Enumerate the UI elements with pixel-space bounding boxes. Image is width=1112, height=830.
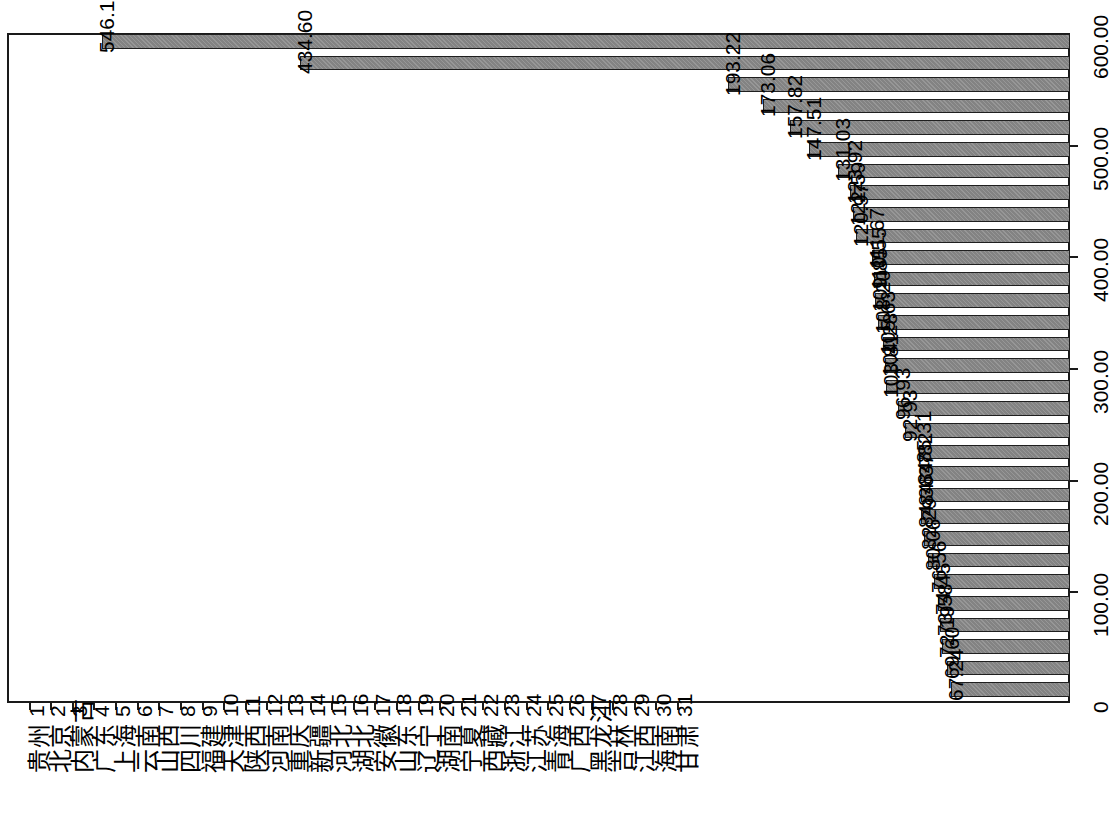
value-tick	[1070, 256, 1078, 258]
category-label-group: 30海南	[634, 703, 656, 830]
value-tick	[1070, 368, 1078, 370]
category-label-group: 11陕西	[223, 703, 245, 830]
category-label-group: 3内蒙古	[50, 703, 72, 830]
category-label-group: 7山西	[137, 703, 159, 830]
bar[interactable]	[102, 34, 1070, 49]
value-tick	[1070, 480, 1078, 482]
category-label-group: 9福建	[180, 703, 202, 830]
bar-slot: 147.51	[7, 141, 1070, 163]
category-label-group: 27黑龙江	[569, 703, 591, 830]
bar-value-label: 546.18	[96, 0, 117, 53]
value-axis-label: 600.00	[1090, 15, 1111, 79]
category-label-group: 10天津	[202, 703, 224, 830]
bar[interactable]	[883, 337, 1070, 352]
bar-slot: 173.06	[7, 98, 1070, 120]
category-label-group: 20湖南	[418, 703, 440, 830]
value-axis-label: 300.00	[1090, 350, 1111, 414]
bar[interactable]	[838, 164, 1070, 179]
bar-slot: 110.55	[7, 271, 1070, 293]
bar[interactable]	[921, 488, 1070, 503]
bar-slot: 69.60	[7, 660, 1070, 682]
category-label-group: 4广东	[72, 703, 94, 830]
category-label-group: 14新疆	[288, 703, 310, 830]
category-label-group: 17安徽	[353, 703, 375, 830]
value-axis-label: 500.00	[1090, 126, 1111, 190]
value-axis: 0100.00200.00300.00400.00500.00600.00	[1070, 33, 1104, 703]
bar[interactable]	[878, 315, 1070, 330]
bar-slot: 434.60	[7, 55, 1070, 77]
category-label-group: 12河南	[245, 703, 267, 830]
bar-slot: 84.37	[7, 487, 1070, 509]
category-index-label: 31	[674, 694, 695, 717]
bar-slot: 122.59	[7, 206, 1070, 228]
category-axis-labels: 1贵州2北京3内蒙古4广东5上海6云南7山西8四川9福建10天津11陕西12河南…	[7, 703, 1070, 830]
value-tick	[1070, 145, 1078, 147]
bar-slot: 73.58	[7, 617, 1070, 639]
category-name-label: 甘肃	[676, 723, 700, 773]
bar-slot: 157.82	[7, 119, 1070, 141]
category-label-group: 18山东	[374, 703, 396, 830]
bar-value-label: 147.51	[803, 96, 824, 160]
value-axis-label: 400.00	[1090, 238, 1111, 302]
category-label-group: 21宁夏	[439, 703, 461, 830]
bar-slot: 546.18	[7, 33, 1070, 55]
bar[interactable]	[300, 56, 1070, 71]
bar-slot: 120.97	[7, 228, 1070, 250]
category-label-group: 22西藏	[461, 703, 483, 830]
bar-slot: 84.82	[7, 465, 1070, 487]
category-label-group: 24江苏	[504, 703, 526, 830]
bar[interactable]	[728, 77, 1070, 92]
category-label-group: 15河北	[310, 703, 332, 830]
value-axis-label: 100.00	[1090, 573, 1111, 637]
bar-slot: 193.22	[7, 76, 1070, 98]
bar[interactable]	[951, 682, 1070, 697]
bar-value-label: 434.60	[294, 10, 315, 74]
bar-slot: 76.56	[7, 573, 1070, 595]
category-label-group: 29江西	[612, 703, 634, 830]
value-tick	[1070, 591, 1078, 593]
category-label-group: 6云南	[115, 703, 137, 830]
category-label-group: 26广西	[547, 703, 569, 830]
bar[interactable]	[919, 445, 1070, 460]
category-label-group: 8四川	[158, 703, 180, 830]
category-label-group: 19辽宁	[396, 703, 418, 830]
category-label-group: 1贵州	[7, 703, 29, 830]
category-label-group: 23浙江	[482, 703, 504, 830]
bar[interactable]	[872, 250, 1070, 265]
value-axis-label: 0	[1090, 701, 1111, 713]
bar-value-label: 173.06	[757, 53, 778, 117]
bar[interactable]	[850, 185, 1070, 200]
category-label-group: 25青海	[526, 703, 548, 830]
bar-slot: 80.06	[7, 552, 1070, 574]
category-label-group: 16湖北	[331, 703, 353, 830]
value-axis-label: 200.00	[1090, 461, 1111, 525]
category-label-group: 31甘肃	[655, 703, 677, 830]
bar-slot: 74.45	[7, 595, 1070, 617]
category-label-group: 5上海	[93, 703, 115, 830]
bar-slot: 72.19	[7, 638, 1070, 660]
bar[interactable]	[875, 293, 1070, 308]
bar[interactable]	[920, 466, 1070, 481]
bar-slot: 123.92	[7, 184, 1070, 206]
category-label-group: 28吉林	[591, 703, 613, 830]
bar-slot: 131.03	[7, 163, 1070, 185]
bar-slot: 85.31	[7, 444, 1070, 466]
category-label-group: 13重庆	[266, 703, 288, 830]
bar[interactable]	[874, 272, 1070, 287]
bar-value-label: 193.22	[722, 32, 743, 96]
bar-slot: 92.93	[7, 422, 1070, 444]
bar-slot: 84.36	[7, 508, 1070, 530]
bars-layer: 546.18434.60193.22173.06157.82147.51131.…	[7, 33, 1070, 703]
category-label-group: 2北京	[29, 703, 51, 830]
bar-slot: 105.63	[7, 336, 1070, 358]
bar-slot: 111.67	[7, 249, 1070, 271]
bar-slot: 108.20	[7, 314, 1070, 336]
bar-value-label: 67.24	[945, 648, 966, 701]
bar-slot: 82.29	[7, 530, 1070, 552]
bar-slot: 109.85	[7, 292, 1070, 314]
